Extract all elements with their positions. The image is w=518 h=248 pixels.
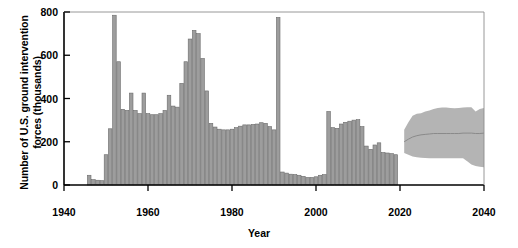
- bar: [365, 146, 369, 185]
- bar: [390, 154, 394, 185]
- chart-figure: Number of U.S. ground intervention force…: [0, 0, 518, 248]
- bar: [142, 93, 146, 185]
- bar: [113, 15, 117, 185]
- bar: [180, 83, 184, 185]
- bar: [335, 128, 339, 185]
- bar: [306, 177, 310, 185]
- bar: [339, 124, 343, 185]
- bar: [184, 62, 188, 185]
- bar: [155, 115, 159, 185]
- bar: [310, 177, 314, 185]
- bar: [360, 127, 364, 185]
- bar: [218, 129, 222, 185]
- bar: [247, 125, 251, 185]
- bar: [134, 110, 138, 185]
- bar: [297, 175, 301, 185]
- bar: [386, 153, 390, 185]
- bar: [268, 127, 272, 185]
- bar: [104, 155, 108, 185]
- bar: [281, 172, 285, 185]
- bar: [230, 129, 234, 185]
- bar: [138, 114, 142, 185]
- bar: [234, 128, 238, 185]
- bar: [394, 155, 398, 185]
- bar: [285, 173, 289, 185]
- bar: [226, 130, 230, 185]
- bar: [289, 174, 293, 185]
- bar: [171, 106, 175, 185]
- bar: [318, 175, 322, 185]
- bar: [167, 95, 171, 185]
- bar: [302, 176, 306, 185]
- bar: [87, 175, 91, 185]
- bar: [197, 34, 201, 185]
- bar: [125, 110, 129, 185]
- bar: [293, 175, 297, 185]
- bar: [377, 143, 381, 185]
- bar: [108, 129, 112, 185]
- bar: [159, 114, 163, 185]
- bar: [205, 91, 209, 185]
- bar: [201, 58, 205, 185]
- chart-plot-area: [0, 0, 518, 248]
- bar: [356, 120, 360, 185]
- bar: [92, 180, 96, 185]
- bar: [255, 124, 259, 185]
- bar: [176, 107, 180, 185]
- bar-series: [87, 15, 397, 185]
- bar: [239, 126, 243, 185]
- bar: [121, 109, 125, 185]
- bar: [209, 123, 213, 185]
- projection-band: [404, 107, 484, 167]
- bar: [222, 130, 226, 185]
- bar: [129, 93, 133, 185]
- bar: [243, 125, 247, 185]
- bar: [314, 177, 318, 185]
- bar: [331, 128, 335, 185]
- bar: [251, 124, 255, 185]
- bar: [323, 175, 327, 185]
- bar: [260, 123, 264, 185]
- bar: [188, 39, 192, 185]
- bar: [352, 120, 356, 185]
- bar: [264, 123, 268, 185]
- bar: [381, 153, 385, 185]
- bar: [117, 62, 121, 185]
- bar: [344, 122, 348, 185]
- bar: [192, 30, 196, 185]
- bar: [146, 114, 150, 185]
- bar: [213, 127, 217, 185]
- bar: [348, 121, 352, 185]
- bar: [327, 111, 331, 185]
- bar: [373, 145, 377, 185]
- bar: [150, 115, 154, 185]
- bar: [272, 130, 276, 185]
- bar: [369, 149, 373, 185]
- bar: [163, 110, 167, 185]
- bar: [276, 17, 280, 185]
